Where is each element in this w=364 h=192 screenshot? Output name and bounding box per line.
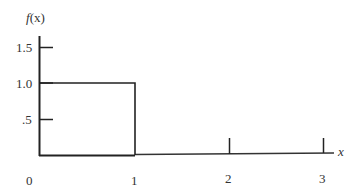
x-axis-extension (135, 153, 334, 155)
x-tick-label-3: 3 (319, 171, 326, 186)
chart-canvas: f(x) 1.5 1.0 .5 0 1 2 3 x (0, 0, 364, 192)
y-tick-label-1.0: 1.0 (16, 76, 32, 91)
density-line (40, 83, 136, 155)
x-tick-label-2: 2 (225, 171, 232, 186)
x-tick-label-0: 0 (26, 173, 33, 188)
y-axis-label: f(x) (26, 10, 45, 25)
y-tick-label-1.5: 1.5 (16, 40, 32, 55)
x-axis-label: x (337, 144, 344, 159)
x-tick-label-1: 1 (131, 173, 138, 188)
y-tick-label-0.5: .5 (22, 112, 32, 127)
